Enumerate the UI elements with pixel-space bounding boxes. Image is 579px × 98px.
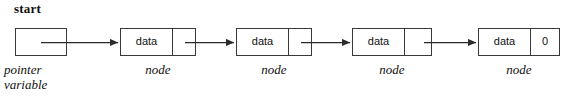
node-1: data: [120, 28, 196, 56]
node-4-null-link-cell: 0: [531, 29, 559, 55]
node-3: data: [352, 28, 432, 56]
node-3-link-cell: [405, 29, 431, 55]
node-2: data: [236, 28, 312, 56]
node-3-caption: node: [353, 62, 431, 77]
node-2-link-cell: [289, 29, 311, 55]
start-label: start: [14, 1, 41, 17]
linked-list-diagram: start data data data data 0: [0, 0, 579, 98]
node-1-data-cell: data: [121, 29, 173, 55]
node-4-caption: node: [480, 62, 558, 77]
pointer-variable-box: [15, 28, 67, 56]
node-2-caption: node: [235, 62, 313, 77]
node-1-link-cell: [173, 29, 195, 55]
node-3-data-cell: data: [353, 29, 405, 55]
node-2-data-cell: data: [237, 29, 289, 55]
node-4: data 0: [478, 28, 560, 56]
node-4-data-cell: data: [479, 29, 531, 55]
pointer-variable-caption: pointer variable: [4, 62, 82, 92]
node-1-caption: node: [119, 62, 197, 77]
